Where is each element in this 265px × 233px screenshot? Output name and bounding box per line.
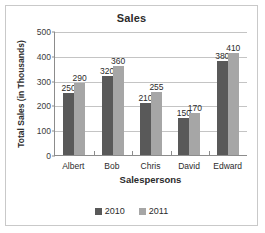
bar-group: 320360 bbox=[102, 32, 124, 155]
x-axis-tick-mark bbox=[209, 151, 210, 155]
y-axis-tick-label: 0 bbox=[46, 151, 51, 161]
y-axis-title-text: Total Sales (in Thousands) bbox=[16, 40, 26, 148]
bar-value-label: 255 bbox=[149, 82, 163, 92]
x-axis-category-label: David bbox=[170, 161, 209, 171]
bar-value-label: 410 bbox=[226, 43, 240, 53]
plot-area: 5004003002001000 25029032036021025515017… bbox=[54, 32, 247, 156]
bar-chris-2011[interactable]: 255 bbox=[151, 92, 162, 155]
y-axis-tick-label: 400 bbox=[37, 52, 51, 62]
x-axis-tick-mark bbox=[132, 151, 133, 155]
x-axis-category-labels: AlbertBobChrisDavidEdward bbox=[54, 161, 247, 171]
y-axis-tick-mark bbox=[52, 156, 55, 157]
bar-bob-2011[interactable]: 360 bbox=[113, 66, 124, 155]
x-axis-category-label: Bob bbox=[93, 161, 132, 171]
bar-group: 210255 bbox=[140, 32, 162, 155]
x-axis-category-label: Albert bbox=[54, 161, 93, 171]
legend-label: 2011 bbox=[149, 206, 168, 216]
y-axis-tick-label: 300 bbox=[37, 77, 51, 87]
x-axis-tick-mark bbox=[94, 151, 95, 155]
bar-group: 250290 bbox=[63, 32, 85, 155]
bar-david-2011[interactable]: 170 bbox=[189, 113, 200, 155]
bar-value-label: 360 bbox=[111, 56, 125, 66]
bar-value-label: 170 bbox=[188, 103, 202, 113]
chart-legend: 20102011 bbox=[6, 206, 257, 216]
y-axis-title: Total Sales (in Thousands) bbox=[14, 32, 28, 156]
legend-label: 2010 bbox=[105, 206, 125, 216]
x-axis-tick-mark bbox=[171, 151, 172, 155]
bar-group: 150170 bbox=[178, 32, 200, 155]
x-axis-category-label: Edward bbox=[208, 161, 247, 171]
chart-title: Sales bbox=[6, 12, 257, 24]
chart-frame: Sales Total Sales (in Thousands) 5004003… bbox=[5, 5, 258, 226]
legend-swatch-icon bbox=[95, 208, 102, 215]
bar-albert-2011[interactable]: 290 bbox=[74, 83, 85, 155]
x-axis-title: Salespersons bbox=[54, 174, 247, 185]
y-axis-tick-label: 100 bbox=[37, 126, 51, 136]
bar-edward-2010[interactable]: 380 bbox=[217, 61, 228, 155]
bar-albert-2010[interactable]: 250 bbox=[63, 93, 74, 155]
bar-david-2010[interactable]: 150 bbox=[178, 118, 189, 155]
legend-swatch-icon bbox=[139, 208, 146, 215]
legend-item-2011[interactable]: 2011 bbox=[139, 206, 168, 216]
legend-item-2010[interactable]: 2010 bbox=[95, 206, 125, 216]
y-axis-tick-label: 500 bbox=[37, 27, 51, 37]
x-axis-category-label: Chris bbox=[131, 161, 170, 171]
bar-group: 380410 bbox=[217, 32, 239, 155]
y-axis-tick-label: 200 bbox=[37, 101, 51, 111]
bar-groups: 250290320360210255150170380410 bbox=[55, 32, 247, 155]
bar-bob-2010[interactable]: 320 bbox=[102, 76, 113, 155]
bar-chris-2010[interactable]: 210 bbox=[140, 103, 151, 155]
bar-edward-2011[interactable]: 410 bbox=[228, 53, 239, 155]
bar-value-label: 290 bbox=[73, 73, 87, 83]
